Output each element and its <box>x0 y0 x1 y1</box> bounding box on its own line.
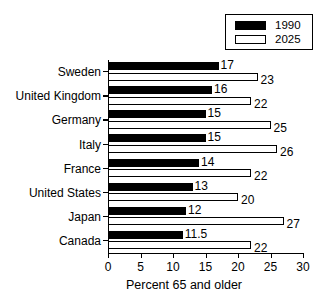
category-label: Germany <box>52 114 101 127</box>
bar-2025 <box>108 169 251 177</box>
bar-2025 <box>108 73 258 81</box>
x-tick-label: 10 <box>166 260 179 274</box>
legend-label-2025: 2025 <box>275 33 301 45</box>
plot-area: 172316221525152614221320122711.522 05101… <box>108 60 303 253</box>
y-tick <box>103 95 108 96</box>
x-axis-title: Percent 65 and older <box>0 278 324 293</box>
legend-entry-1990: 1990 <box>235 18 312 32</box>
bar-value-2025: 26 <box>280 146 293 158</box>
y-tick <box>103 240 108 241</box>
category-label: Japan <box>68 210 101 223</box>
chart-legend: 1990 2025 <box>225 14 313 50</box>
bar-chart: 1990 2025 SwedenUnited KingdomGermanyIta… <box>0 0 324 307</box>
category-label: Italy <box>79 138 101 151</box>
bar-value-2025: 22 <box>254 98 267 110</box>
bar-2025 <box>108 97 251 105</box>
y-tick <box>103 192 108 193</box>
bar-1990 <box>108 110 206 118</box>
y-tick <box>103 119 108 120</box>
bar-value-2025: 22 <box>254 242 267 254</box>
bar-1990 <box>108 159 199 167</box>
bar-value-1990: 17 <box>221 59 234 71</box>
bar-value-1990: 11.5 <box>185 228 207 240</box>
bar-value-1990: 15 <box>208 107 221 119</box>
category-label: Sweden <box>58 66 101 79</box>
bar-value-2025: 27 <box>287 218 300 230</box>
y-tick <box>103 144 108 145</box>
bar-value-1990: 15 <box>208 131 221 143</box>
bar-value-1990: 12 <box>188 204 201 216</box>
category-label: Canada <box>59 235 101 248</box>
x-tick <box>141 253 142 258</box>
x-tick-label: 25 <box>264 260 277 274</box>
x-tick <box>238 253 239 258</box>
bar-1990 <box>108 86 212 94</box>
bar-2025 <box>108 145 277 153</box>
bar-value-1990: 13 <box>195 180 208 192</box>
bar-value-2025: 23 <box>261 74 274 86</box>
y-tick <box>103 71 108 72</box>
bar-1990 <box>108 62 219 70</box>
x-tick-label: 0 <box>105 260 112 274</box>
bar-value-2025: 20 <box>241 194 254 206</box>
bar-2025 <box>108 241 251 249</box>
x-tick <box>173 253 174 258</box>
x-tick <box>108 253 109 258</box>
legend-entry-2025: 2025 <box>235 32 312 46</box>
category-axis-labels: SwedenUnited KingdomGermanyItalyFranceUn… <box>0 60 101 253</box>
category-label: United States <box>29 186 101 199</box>
x-tick <box>303 253 304 258</box>
bar-1990 <box>108 183 193 191</box>
x-tick-label: 15 <box>199 260 212 274</box>
bar-2025 <box>108 217 284 225</box>
legend-swatch-2025 <box>235 35 266 44</box>
bar-1990 <box>108 134 206 142</box>
legend-label-1990: 1990 <box>275 19 301 31</box>
bar-2025 <box>108 121 271 129</box>
bar-value-1990: 14 <box>201 156 214 168</box>
bar-2025 <box>108 193 238 201</box>
bar-value-2025: 22 <box>254 170 267 182</box>
bar-value-1990: 16 <box>214 83 227 95</box>
category-label: United Kingdom <box>16 90 101 103</box>
x-tick-label: 5 <box>137 260 144 274</box>
category-label: France <box>64 162 101 175</box>
x-tick <box>271 253 272 258</box>
y-tick <box>103 216 108 217</box>
bar-1990 <box>108 207 186 215</box>
bar-value-2025: 25 <box>274 122 287 134</box>
y-tick <box>103 168 108 169</box>
x-tick <box>206 253 207 258</box>
bar-1990 <box>108 231 183 239</box>
x-tick-label: 30 <box>296 260 309 274</box>
x-tick-label: 20 <box>231 260 244 274</box>
legend-swatch-1990 <box>235 21 266 30</box>
